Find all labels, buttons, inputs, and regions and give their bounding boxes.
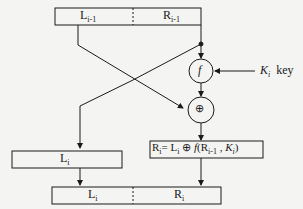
top-right-label: Ri-1 xyxy=(163,8,180,24)
li-label: Li xyxy=(60,151,70,167)
bottom-left-label: Li xyxy=(88,187,98,203)
top-left-label: Li-1 xyxy=(80,8,96,24)
function-f-label: f xyxy=(198,63,201,78)
key-label: Ki key xyxy=(260,63,294,79)
feistel-round-diagram xyxy=(0,0,303,209)
ri-formula: Ri= Li ⊕ f(Ri-1 , Ki) xyxy=(152,141,238,156)
xor-label: ⊕ xyxy=(195,102,204,115)
bottom-block xyxy=(52,187,221,204)
bottom-right-label: Ri xyxy=(174,187,184,203)
